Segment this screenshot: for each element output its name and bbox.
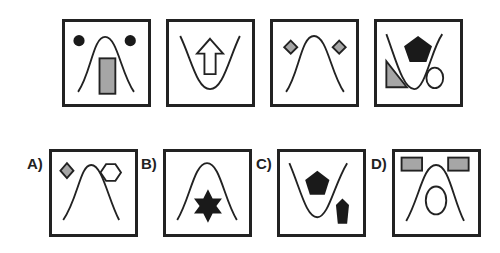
- question-panel-4: [374, 19, 463, 107]
- panel-1-figure: [65, 22, 148, 104]
- question-panel-3: [270, 19, 359, 107]
- black-pentagon-icon: [404, 36, 432, 62]
- panel-4-figure: [377, 22, 460, 104]
- question-panel-1: [62, 19, 151, 107]
- answer-option-a[interactable]: [49, 149, 138, 237]
- gray-rectangle-icon: [100, 58, 116, 93]
- answer-option-b[interactable]: [163, 149, 252, 237]
- panel-3-figure: [273, 22, 356, 104]
- black-pentagon-icon: [305, 171, 329, 195]
- answer-option-c[interactable]: [277, 149, 366, 237]
- answer-option-d[interactable]: [392, 149, 481, 237]
- panel-2-figure: [169, 22, 252, 104]
- gray-rectangle-icon: [402, 158, 423, 171]
- white-hexagon-icon: [100, 164, 121, 181]
- question-panel-2: [166, 19, 255, 107]
- white-ellipse-icon: [426, 186, 447, 214]
- gray-diamond-icon: [284, 41, 297, 54]
- black-circle-icon: [125, 35, 136, 46]
- answer-label-c: C): [256, 155, 272, 172]
- gray-diamond-icon: [60, 163, 73, 178]
- option-b-figure: [166, 152, 249, 234]
- black-circle-icon: [73, 35, 84, 46]
- up-arrow-icon: [197, 39, 223, 74]
- black-star-icon: [194, 189, 222, 223]
- answer-label-b: B): [141, 155, 157, 172]
- white-ellipse-icon: [426, 68, 443, 89]
- gray-rectangle-icon: [448, 158, 469, 171]
- gray-diamond-icon: [333, 41, 346, 54]
- option-d-figure: [395, 152, 478, 234]
- answer-label-a: A): [27, 155, 43, 172]
- answer-label-d: D): [371, 155, 387, 172]
- option-c-figure: [280, 152, 363, 234]
- option-a-figure: [52, 152, 135, 234]
- small-black-pentagon-icon: [336, 199, 349, 224]
